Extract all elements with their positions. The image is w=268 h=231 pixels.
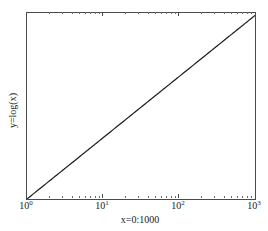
x-minor-tick (99, 196, 100, 198)
x-minor-tick (95, 12, 96, 14)
x-minor-tick (166, 12, 167, 14)
x-minor-tick (171, 12, 172, 14)
x-minor-tick (79, 196, 80, 198)
xtick-mantissa: 10 (247, 200, 257, 211)
x-minor-tick (148, 196, 149, 198)
x-minor-tick (72, 196, 73, 198)
x-minor-tick (79, 12, 80, 14)
plot-area (26, 12, 256, 200)
x-minor-tick (251, 196, 252, 198)
xtick-mark (178, 12, 179, 16)
x-minor-tick (175, 12, 176, 14)
x-minor-tick (247, 12, 248, 14)
x-minor-tick (251, 12, 252, 14)
x-minor-tick (125, 196, 126, 198)
x-minor-tick (138, 12, 139, 14)
x-minor-tick (237, 196, 238, 198)
x-minor-tick (242, 12, 243, 14)
figure-canvas: 7 6 5 4 3 2 1 0 y=log(x) 100 101 102 103… (0, 0, 268, 231)
x-minor-tick (99, 12, 100, 14)
xtick-mantissa: 10 (95, 200, 105, 211)
x-minor-tick (247, 196, 248, 198)
x-minor-tick (90, 12, 91, 14)
x-minor-tick (155, 196, 156, 198)
x-minor-tick (224, 196, 225, 198)
x-minor-tick (155, 12, 156, 14)
xtick-label: 100 (1, 201, 51, 211)
x-minor-tick (95, 196, 96, 198)
xtick-exponent: 1 (105, 199, 109, 207)
x-minor-tick (237, 12, 238, 14)
xtick-label: 101 (77, 201, 127, 211)
data-series-log-x (27, 13, 255, 199)
x-minor-tick (166, 196, 167, 198)
x-minor-tick (201, 12, 202, 14)
xtick-exponent: 2 (181, 199, 185, 207)
x-minor-tick (214, 196, 215, 198)
x-minor-tick (49, 196, 50, 198)
x-minor-tick (224, 12, 225, 14)
x-minor-tick (171, 196, 172, 198)
x-minor-tick (72, 12, 73, 14)
xtick-mantissa: 10 (171, 200, 181, 211)
x-minor-tick (85, 196, 86, 198)
xtick-exponent: 0 (29, 199, 33, 207)
y-axis-label: y=log(x) (7, 71, 18, 151)
x-axis-label: x=0:1000 (26, 214, 254, 225)
x-minor-tick (175, 196, 176, 198)
x-minor-tick (201, 196, 202, 198)
x-minor-tick (242, 196, 243, 198)
xtick-mark (178, 194, 179, 198)
xtick-mantissa: 10 (19, 200, 29, 211)
xtick-exponent: 3 (257, 199, 261, 207)
x-minor-tick (148, 12, 149, 14)
xtick-mark (102, 194, 103, 198)
x-minor-tick (62, 196, 63, 198)
x-minor-tick (90, 196, 91, 198)
x-minor-tick (161, 12, 162, 14)
xtick-label: 102 (153, 201, 203, 211)
x-minor-tick (49, 12, 50, 14)
x-minor-tick (138, 196, 139, 198)
xtick-mark (102, 12, 103, 16)
x-minor-tick (231, 12, 232, 14)
x-minor-tick (125, 12, 126, 14)
x-minor-tick (85, 12, 86, 14)
x-minor-tick (161, 196, 162, 198)
xtick-label: 103 (229, 201, 268, 211)
x-minor-tick (231, 196, 232, 198)
x-minor-tick (62, 12, 63, 14)
x-minor-tick (214, 12, 215, 14)
